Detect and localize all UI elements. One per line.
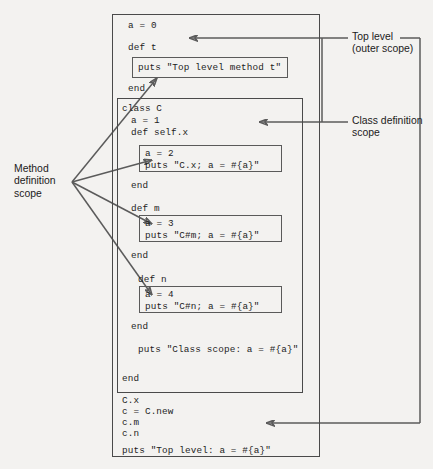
code-end-class: end [122, 373, 139, 384]
code-box-m-2: puts "C#m; a = #{a}" [145, 230, 260, 241]
code-puts-top-level: puts "Top level: a = #{a}" [122, 445, 271, 456]
code-call-cn: c.n [122, 428, 139, 439]
code-top-a: a = 0 [128, 20, 157, 31]
code-end-t: end [128, 83, 145, 94]
code-def-m: def m [131, 203, 160, 214]
label-method-definition: Method definition scope [14, 163, 56, 200]
code-box-x-2: puts "C.x; a = #{a}" [145, 160, 260, 171]
code-puts-class-scope: puts "Class scope: a = #{a}" [138, 344, 298, 355]
code-call-cnew: c = C.new [122, 406, 174, 417]
code-box-m-1: a = 3 [145, 218, 174, 229]
diagram-canvas: a = 0 def t puts "Top level method t" en… [0, 0, 433, 469]
code-class-c: class C [122, 103, 162, 114]
code-call-cx: C.x [122, 395, 139, 406]
code-box-n-1: a = 4 [145, 289, 174, 300]
code-box-t: puts "Top level method t" [138, 62, 281, 73]
code-end-m: end [131, 250, 148, 261]
code-def-n: def n [138, 274, 167, 285]
code-end-n: end [131, 321, 148, 332]
code-box-n-2: puts "C#n; a = #{a}" [145, 301, 260, 312]
code-end-x: end [131, 180, 148, 191]
code-call-cm: c.m [122, 417, 139, 428]
code-box-x-1: a = 2 [145, 148, 174, 159]
code-def-t: def t [128, 42, 157, 53]
code-def-selfx: def self.x [131, 127, 188, 138]
label-class-definition: Class definition scope [352, 115, 422, 140]
label-top-level: Top level (outer scope) [352, 31, 413, 56]
code-class-a: a = 1 [131, 115, 160, 126]
